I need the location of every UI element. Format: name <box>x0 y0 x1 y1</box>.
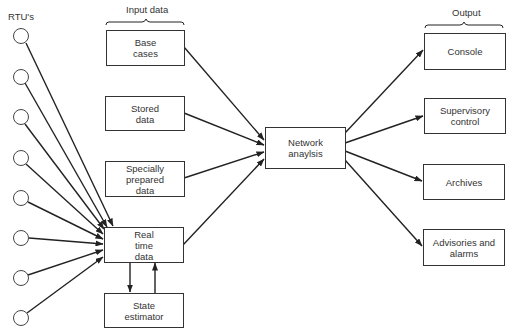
archives-box: Archives <box>423 164 505 200</box>
advisories-and-alarms-box: Advisories and alarms <box>423 229 505 266</box>
specially-prepared-data-box: Specially prepared data <box>105 161 185 197</box>
real-time-data-box: Real time data <box>104 227 184 263</box>
stored-data-box: Stored data <box>105 96 185 131</box>
rtu-node-2 <box>13 69 29 85</box>
input-data-label: Input data <box>126 4 168 15</box>
rtu-node-5 <box>13 190 29 206</box>
rtu-node-6 <box>13 230 29 246</box>
console-box: Console <box>424 33 506 70</box>
output-label: Output <box>452 7 481 18</box>
rtu-node-3 <box>13 109 29 125</box>
input-bracket <box>106 19 184 25</box>
network-analysis-box: Network anaylsis <box>265 127 346 169</box>
rtu-node-7 <box>13 270 29 286</box>
rtus-label: RTU's <box>8 11 34 22</box>
output-bracket <box>425 22 503 28</box>
supervisory-control-box: Supervisory control <box>424 98 506 134</box>
base-cases-box: Base cases <box>106 30 185 66</box>
rtu-node-4 <box>13 150 29 166</box>
rtu-node-1 <box>13 28 29 44</box>
rtu-node-8 <box>13 310 29 326</box>
state-estimator-box: State estimator <box>104 293 184 328</box>
